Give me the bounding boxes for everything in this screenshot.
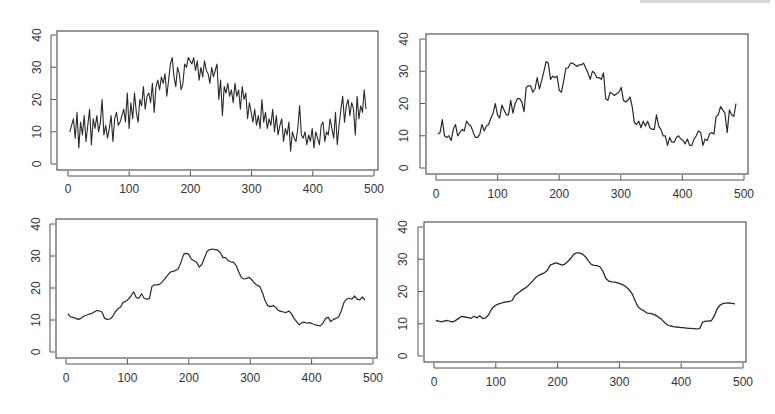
x-tick-label: 400: [672, 187, 692, 201]
series-line: [438, 62, 736, 146]
y-tick-label: 20: [29, 281, 43, 295]
y-tick-label: 20: [30, 93, 44, 107]
series-line: [68, 249, 365, 326]
y-tick-label: 30: [29, 249, 43, 263]
y-tick-label: 30: [396, 252, 410, 266]
y-tick-label: 0: [30, 160, 44, 167]
panel-top-right: 0100200300400500010203040: [397, 32, 754, 201]
y-tick-label: 20: [397, 97, 411, 111]
plot-frame: [426, 34, 748, 174]
x-tick-label: 400: [303, 182, 323, 196]
x-tick-label: 400: [671, 375, 691, 389]
y-tick-label: 40: [397, 32, 411, 46]
series-line: [436, 253, 735, 329]
x-tick-label: 200: [180, 182, 200, 196]
x-tick-label: 0: [63, 371, 70, 385]
panel-bottom-right: 0100200300400500010203040: [396, 220, 753, 389]
x-tick-label: 300: [611, 187, 631, 201]
x-tick-label: 100: [117, 371, 137, 385]
y-tick-label: 0: [397, 164, 411, 171]
y-tick-label: 30: [30, 60, 44, 74]
x-tick-label: 100: [486, 375, 506, 389]
x-tick-label: 100: [119, 182, 139, 196]
x-tick-label: 0: [65, 182, 72, 196]
plot-frame: [56, 219, 377, 358]
x-tick-label: 300: [242, 182, 262, 196]
y-tick-label: 40: [29, 217, 43, 231]
x-tick-label: 0: [433, 187, 440, 201]
x-tick-label: 200: [549, 187, 569, 201]
x-tick-label: 200: [548, 375, 568, 389]
x-tick-label: 500: [363, 371, 383, 385]
figure-2x2-line-plots: 0100200300400500010203040 01002003004005…: [0, 0, 775, 414]
x-tick-label: 500: [733, 375, 753, 389]
x-tick-label: 400: [302, 371, 322, 385]
y-tick-label: 10: [397, 129, 411, 143]
y-tick-label: 20: [396, 285, 410, 299]
y-tick-label: 0: [396, 352, 410, 359]
series-line: [70, 58, 366, 152]
y-tick-label: 30: [397, 64, 411, 78]
y-tick-label: 10: [396, 317, 410, 331]
x-tick-label: 300: [609, 375, 629, 389]
y-tick-label: 40: [30, 28, 44, 42]
panel-top-left: 0100200300400500010203040: [30, 28, 384, 196]
x-tick-label: 200: [179, 371, 199, 385]
x-tick-label: 500: [364, 182, 384, 196]
y-tick-label: 0: [29, 348, 43, 355]
y-tick-label: 40: [396, 220, 410, 234]
plot-frame: [424, 222, 746, 362]
y-tick-label: 10: [29, 313, 43, 327]
x-tick-label: 500: [734, 187, 754, 201]
x-tick-label: 300: [240, 371, 260, 385]
plot-frame: [57, 31, 378, 170]
panel-bottom-left: 0100200300400500010203040: [29, 217, 383, 385]
x-tick-label: 100: [488, 187, 508, 201]
y-tick-label: 10: [30, 125, 44, 139]
x-tick-label: 0: [431, 375, 438, 389]
